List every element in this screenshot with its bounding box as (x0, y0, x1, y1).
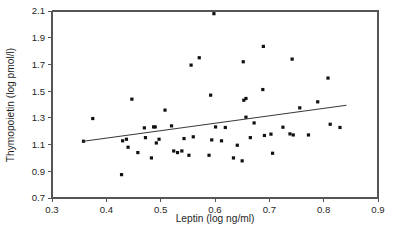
data-point (298, 106, 301, 109)
x-axis-title: Leptin (log ng/ml) (176, 213, 255, 224)
data-point (236, 144, 239, 147)
data-point (130, 98, 133, 101)
x-tick-label: 0.8 (317, 204, 330, 215)
chart-canvas: 0.70.91.11.31.51.71.92.1 0.30.40.50.60.7… (0, 0, 398, 246)
data-point (198, 56, 201, 59)
data-point (121, 139, 124, 142)
data-point (269, 133, 272, 136)
data-point (224, 126, 227, 129)
data-point (180, 149, 183, 152)
data-point (307, 133, 310, 136)
data-point (262, 45, 265, 48)
data-point (157, 138, 160, 141)
data-point (207, 154, 210, 157)
data-point (176, 151, 179, 154)
data-point (263, 134, 266, 137)
x-tick-label: 0.7 (263, 204, 276, 215)
tick-marks (48, 11, 378, 202)
data-point (232, 156, 235, 159)
data-point (136, 151, 139, 154)
data-point (91, 117, 94, 120)
data-point (189, 64, 192, 67)
data-point (220, 139, 223, 142)
data-point (261, 88, 264, 91)
data-point (172, 149, 175, 152)
axes (52, 11, 378, 198)
y-tick-label: 1.7 (32, 59, 45, 70)
y-tick-labels: 0.70.91.11.31.51.71.92.1 (32, 5, 45, 203)
data-point (154, 125, 157, 128)
y-tick-label: 1.1 (32, 139, 45, 150)
data-point (241, 159, 244, 162)
y-tick-label: 1.9 (32, 32, 45, 43)
data-point (125, 138, 128, 141)
y-tick-label: 0.9 (32, 166, 45, 177)
y-tick-label: 2.1 (32, 5, 45, 16)
x-tick-label: 0.4 (100, 204, 114, 215)
data-point (150, 156, 153, 159)
data-point (253, 121, 256, 124)
y-tick-label: 1.5 (32, 86, 45, 97)
data-point (210, 138, 213, 141)
data-point (120, 173, 123, 176)
x-tick-label: 0.9 (371, 204, 384, 215)
data-point (182, 137, 185, 140)
axis-spines-left-bottom (52, 11, 378, 198)
y-axis-title: Thymopoietin (log pmol/l) (5, 48, 16, 162)
data-points (82, 12, 342, 176)
data-point (143, 126, 146, 129)
data-point (144, 136, 147, 139)
data-point (244, 97, 247, 100)
x-tick-label: 0.3 (45, 204, 58, 215)
data-point (329, 123, 332, 126)
data-point (187, 154, 190, 157)
data-point (209, 94, 212, 97)
y-tick-label: 1.3 (32, 112, 45, 123)
data-point (155, 141, 158, 144)
data-point (249, 136, 252, 139)
data-point (291, 57, 294, 60)
scatter-plot-figure: 0.70.91.11.31.51.71.92.1 0.30.40.50.60.7… (0, 0, 398, 246)
data-point (326, 76, 329, 79)
y-tick-label: 0.7 (32, 192, 45, 203)
data-point (316, 100, 319, 103)
data-point (214, 125, 217, 128)
data-point (163, 109, 166, 112)
data-point (292, 133, 295, 136)
data-point (126, 146, 129, 149)
axis-spines-top-right (52, 11, 378, 198)
data-point (170, 124, 173, 127)
data-point (212, 12, 215, 15)
data-point (242, 60, 245, 63)
x-tick-label: 0.5 (154, 204, 167, 215)
data-point (288, 132, 291, 135)
data-point (192, 135, 195, 138)
data-point (281, 126, 284, 129)
data-point (338, 126, 341, 129)
data-point (271, 152, 274, 155)
